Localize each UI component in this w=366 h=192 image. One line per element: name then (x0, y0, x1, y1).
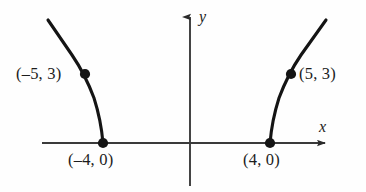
y-axis-label: y (199, 9, 206, 25)
point-marker-right-point (286, 69, 296, 79)
point-marker-left-point (80, 69, 90, 79)
label-left-point: (–5, 3) (16, 66, 61, 83)
label-right-point: (5, 3) (299, 66, 336, 83)
x-axis-label: x (319, 119, 326, 135)
point-marker-right-vertex (265, 138, 275, 148)
plot-canvas (0, 0, 366, 192)
label-left-vertex: (–4, 0) (68, 152, 113, 169)
hyperbola-figure: (–5, 3) (5, 3) (–4, 0) (4, 0) y x (0, 0, 366, 192)
point-marker-left-vertex (98, 138, 108, 148)
label-right-vertex: (4, 0) (243, 152, 280, 169)
